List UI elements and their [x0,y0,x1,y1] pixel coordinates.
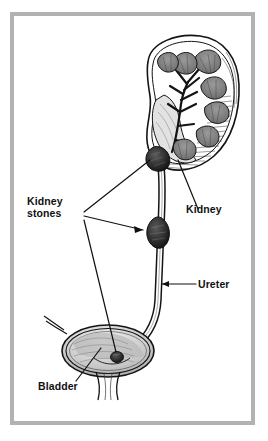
label-kidney-stones: Kidney stones [27,196,63,219]
urinary-tract-illustration [0,0,268,441]
kidney-stone-renal-pelvis [146,147,170,172]
label-kidney: Kidney [186,204,222,216]
kidney-stone-ureter [147,217,170,248]
kidney-stone-bladder [111,352,124,363]
label-bladder: Bladder [38,381,78,393]
figure-page: Kidney stones Kidney Ureter Bladder [0,0,268,441]
leader-to-ureter-stone [84,216,143,230]
left-ureter-stub [44,316,64,330]
leader-to-renal-pelvis-stone [84,160,150,212]
label-ureter: Ureter [198,279,230,291]
